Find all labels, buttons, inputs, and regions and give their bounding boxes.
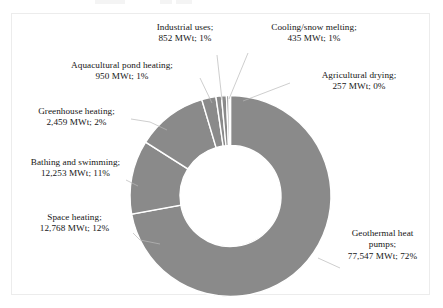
slice-label-industrial-uses-line1: Industrial uses; — [125, 22, 245, 33]
slice-label-greenhouse-heating: Greenhouse heating; 2,459 MWt; 2% — [14, 106, 139, 129]
slice-label-greenhouse-heating-line2: 2,459 MWt; 2% — [14, 117, 139, 128]
slice-label-aquacultural-pond-heating: Aquacultural pond heating; 950 MWt; 1% — [37, 60, 207, 83]
slice-label-space-heating-line1: Space heating; — [13, 212, 136, 223]
slice-label-geothermal-heat-pumps-line3: 77,547 MWt; 72% — [330, 251, 435, 262]
slice-label-geothermal-heat-pumps-line2: pumps; — [330, 239, 435, 250]
slice-label-agricultural-drying: Agricultural drying; 257 MWt; 0% — [291, 70, 427, 93]
slice-label-aquacultural-pond-heating-line2: 950 MWt; 1% — [37, 71, 207, 82]
slice-label-geothermal-heat-pumps: Geothermal heat pumps; 77,547 MWt; 72% — [330, 228, 435, 262]
slice-label-bathing-and-swimming: Bathing and swimming; 12,253 MWt; 11% — [8, 157, 143, 180]
slice-label-industrial-uses: Industrial uses; 852 MWt; 1% — [125, 22, 245, 45]
slice-label-cooling-snow-melting: Cooling/snow melting; 435 MWt; 1% — [248, 22, 380, 45]
slice-label-industrial-uses-line2: 852 MWt; 1% — [125, 33, 245, 44]
slice-label-cooling-snow-melting-line1: Cooling/snow melting; — [248, 22, 380, 33]
slice-label-bathing-and-swimming-line2: 12,253 MWt; 11% — [8, 168, 143, 179]
slice-label-space-heating: Space heating; 12,768 MWt; 12% — [13, 212, 136, 235]
chart-page: Industrial uses; 852 MWt; 1% Cooling/sno… — [0, 0, 443, 308]
slice-label-greenhouse-heating-line1: Greenhouse heating; — [14, 106, 139, 117]
slice-label-geothermal-heat-pumps-line1: Geothermal heat — [330, 228, 435, 239]
slice-label-cooling-snow-melting-line2: 435 MWt; 1% — [248, 33, 380, 44]
slice-label-aquacultural-pond-heating-line1: Aquacultural pond heating; — [37, 60, 207, 71]
slice-label-agricultural-drying-line2: 257 MWt; 0% — [291, 81, 427, 92]
slice-label-bathing-and-swimming-line1: Bathing and swimming; — [8, 157, 143, 168]
slice-label-space-heating-line2: 12,768 MWt; 12% — [13, 223, 136, 234]
donut-slice-agricultural-drying — [229, 95, 231, 145]
donut-slice-group — [130, 95, 331, 296]
slice-label-agricultural-drying-line1: Agricultural drying; — [291, 70, 427, 81]
